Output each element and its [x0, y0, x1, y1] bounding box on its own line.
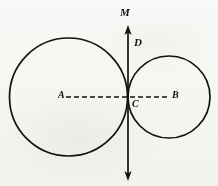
figure-canvas: [0, 0, 218, 186]
label-vector-m: M: [120, 7, 130, 18]
label-point-a: A: [58, 90, 65, 100]
label-point-c: C: [132, 99, 139, 109]
label-point-b: B: [172, 90, 179, 100]
label-direction-d: D: [134, 37, 142, 48]
geometry-figure: M D A C B: [0, 0, 218, 186]
